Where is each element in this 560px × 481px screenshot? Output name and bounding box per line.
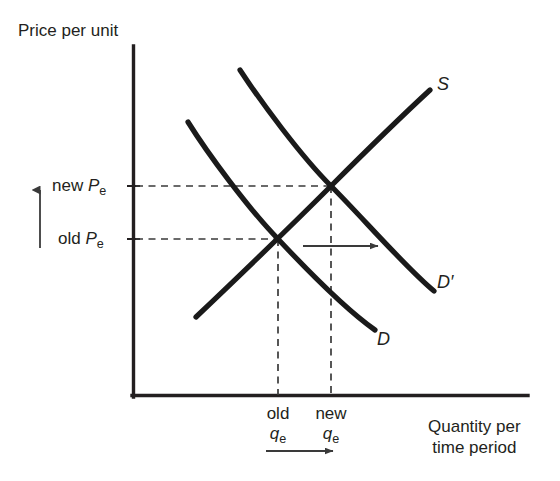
old-price-subscript: e (97, 237, 104, 251)
new-quantity-symbol: q (323, 424, 332, 443)
new-quantity-subscript: e (332, 432, 339, 446)
new-quantity-prefix: new (315, 404, 346, 423)
supply-curve-label: S (437, 74, 449, 95)
old-quantity-label: oldqe (254, 404, 302, 444)
axes-group (132, 46, 528, 397)
x-axis-title-line2: time period (428, 437, 521, 458)
new-price-label: new Pe (52, 176, 106, 196)
supply-demand-diagram: Price per unit Quantity per time period … (0, 0, 560, 481)
old-price-label: old Pe (58, 229, 104, 249)
y-axis-title: Price per unit (18, 21, 118, 41)
old-quantity-prefix: old (267, 404, 290, 423)
demand-curve-label: D (377, 329, 390, 350)
old-price-prefix: old (58, 229, 85, 248)
new-price-symbol: P (88, 176, 99, 195)
supply-curve (196, 90, 430, 317)
demand-shifted-curve-label: D′ (437, 272, 453, 293)
old-price-symbol: P (85, 229, 96, 248)
x-axis-title-line1: Quantity per (428, 417, 521, 436)
old-quantity-symbol: q (270, 424, 279, 443)
old-quantity-subscript: e (279, 432, 286, 446)
supply-curve-group (196, 90, 430, 317)
new-quantity-label: newqe (307, 404, 355, 444)
x-axis-title: Quantity per time period (428, 416, 521, 458)
new-price-prefix: new (52, 176, 88, 195)
new-price-subscript: e (99, 184, 106, 198)
